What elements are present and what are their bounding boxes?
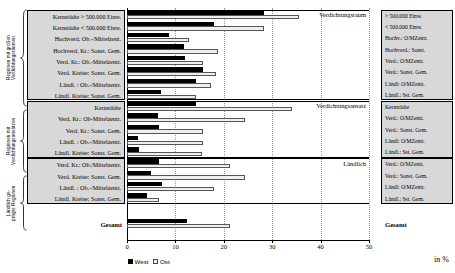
category-label-right: Ländl.: Sst. Gem. xyxy=(382,197,424,203)
category-label: Verd. Kr.: Ob-Mittelzentr. xyxy=(58,116,124,122)
gridline-50 xyxy=(369,8,370,240)
category-label: Verd. Kr.: Ob./Mittelzentr. xyxy=(57,162,124,168)
category-label-right: Hochverd.: Sonst. xyxy=(382,48,425,54)
category-label: Ländl. Kreise: Sonst. Gem. xyxy=(55,93,124,99)
category-label-right: Verd.: O/MZentr. xyxy=(382,162,424,168)
bar-ost xyxy=(127,38,189,42)
category-label: Kernstädte > 500.000 Einw. xyxy=(53,14,124,20)
category-label-right: Ländl.: Sst. Gem. xyxy=(382,93,424,99)
category-label: Ländl. : Ob.-/Mittelzentr. xyxy=(60,185,124,191)
bar-ost xyxy=(127,83,211,87)
gridline-40 xyxy=(321,8,322,240)
total-row-label-right: Gesamt xyxy=(381,221,453,228)
axis-tick-label-10: 10 xyxy=(172,243,179,250)
category-label-right: Verd.: Sonst. Gem. xyxy=(382,174,427,180)
category-label: Ländl. : Ob.-/Mittelzentr. xyxy=(60,139,124,145)
plot-area: VerdichtungsraumVerdichtungsansatzLändli… xyxy=(127,8,369,240)
category-label: Verd. Kreise: Sonst. Gem. xyxy=(57,70,124,76)
category-label: Hochverd. Kr.: Sonst. Gem. xyxy=(53,48,124,54)
category-label: Ländl. Kreise: Sonst. Gem. xyxy=(55,150,124,156)
category-label: Kernstädte < 500.000 Einw. xyxy=(53,25,124,31)
brace-group-2 xyxy=(20,175,27,231)
category-label: Kernstädte xyxy=(95,105,124,111)
bar-ost xyxy=(127,26,264,30)
block-label-2: Ländlich xyxy=(343,160,366,167)
axis-tick-label-30: 30 xyxy=(269,243,276,250)
category-label-right: Ländl.: Sst. Gem. xyxy=(382,150,424,156)
x-axis-line xyxy=(127,240,369,241)
category-label: Verd. Kr.: Sonst. Gem. xyxy=(66,128,124,134)
legend: West Ost xyxy=(128,258,170,265)
axis-tick-label-40: 40 xyxy=(317,243,324,250)
category-label-right: Kernstädte xyxy=(382,105,409,111)
category-label-right: Ländl: O/MZentr. xyxy=(382,82,425,88)
legend-label-ost: Ost xyxy=(160,258,170,265)
right-label-column-block-0: > 500.000 Einw.< 500.000 Einw.Hochv.: O/… xyxy=(381,10,453,101)
category-label-column-block-0: Kernstädte > 500.000 Einw.Kernstädte < 5… xyxy=(27,10,125,101)
bar-ost xyxy=(127,187,214,191)
bar-ost-total xyxy=(127,224,230,228)
legend-item-west: West xyxy=(128,258,148,265)
bar-ost xyxy=(127,49,218,53)
bar-ost xyxy=(127,118,245,122)
right-label-column-block-1: KernstädteVerd.: O/MZentr.Verd.: Sonst. … xyxy=(381,101,453,158)
gridline-30 xyxy=(272,8,273,240)
bar-ost xyxy=(127,61,203,65)
axis-tick-label-20: 20 xyxy=(221,243,228,250)
category-label-right: Ländl: O/MZentr. xyxy=(382,139,425,145)
block-label-1: Verdichtungsansatz xyxy=(316,102,366,109)
gridline-10 xyxy=(175,8,176,240)
bar-ost xyxy=(127,15,299,19)
brace-group-0 xyxy=(20,9,27,107)
bar-ost xyxy=(127,175,245,179)
axis-tick-label-50: 50 xyxy=(366,243,373,250)
category-label-right: Verd.: O/MZentr. xyxy=(382,59,424,65)
plot-frame xyxy=(127,8,369,240)
bar-ost xyxy=(127,152,202,156)
unit-label: in % xyxy=(434,255,449,264)
block-label-0: Verdichtungsraum xyxy=(319,11,366,18)
bar-ost xyxy=(127,72,216,76)
bar-ost xyxy=(127,164,230,168)
category-label-right: Verd.: Sonst. Gem. xyxy=(382,70,427,76)
legend-label-west: West xyxy=(135,258,149,265)
category-label-right: Verd.: Sonst. Gem. xyxy=(382,128,427,134)
category-label-right: Hochv.: O/MZentr. xyxy=(382,36,428,42)
bar-ost xyxy=(127,107,292,111)
category-label-column-block-1: KernstädteVerd. Kr.: Ob-Mittelzentr.Verd… xyxy=(27,101,125,158)
category-label-right: Ländl: O/MZentr. xyxy=(382,185,425,191)
bar-ost xyxy=(127,95,196,99)
right-label-column-block-2: Verd.: O/MZentr.Verd.: Sonst. Gem.Ländl:… xyxy=(381,158,453,203)
category-label-right: Verd.: O/MZentr. xyxy=(382,116,424,122)
category-label: Ländl. Kreise: Sonst. Gem. xyxy=(55,196,124,202)
category-label-right: > 500.000 Einw. xyxy=(382,14,422,20)
gridline-20 xyxy=(224,8,225,240)
bar-ost xyxy=(127,141,203,145)
bar-ost xyxy=(127,129,203,133)
category-label: Hochverd. Ob.-/Mittelzent. xyxy=(55,36,124,42)
legend-item-ost: Ost xyxy=(153,258,169,265)
category-label-right: < 500.000 Einw. xyxy=(382,25,422,31)
x-axis: 01020304050 xyxy=(127,240,369,250)
category-label: Verd. Kr.: Ob.-Mittelzentr. xyxy=(56,59,124,65)
axis-tick-label-0: 0 xyxy=(125,243,128,250)
legend-swatch-ost-icon xyxy=(153,259,158,264)
category-label-column-block-2: Verd. Kr.: Ob./Mittelzentr.Verd. Kreise:… xyxy=(27,158,125,203)
category-label: Verd. Kreise: Sonst. Gem. xyxy=(57,174,124,180)
category-label: Ländl. : Ob.-/Mittelzentr. xyxy=(60,82,124,88)
brace-group-1 xyxy=(20,109,27,173)
total-row-label: Gesamt xyxy=(27,221,125,228)
legend-swatch-west-icon xyxy=(128,259,133,264)
chart-root: Regionen mit großen Verdichtungsräumen R… xyxy=(0,0,455,273)
bar-ost xyxy=(127,198,159,202)
